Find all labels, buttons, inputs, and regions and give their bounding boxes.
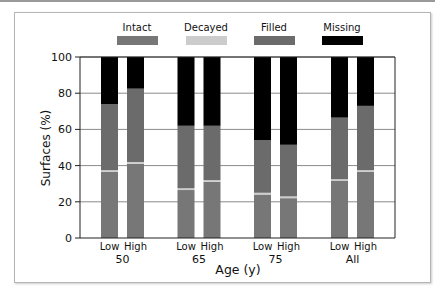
y-tick-label: 60: [58, 123, 72, 136]
bar-segment-missing: [101, 57, 118, 104]
bar-segment-missing: [280, 57, 297, 145]
legend-swatch: [254, 36, 295, 45]
x-tick-label: Low: [100, 241, 120, 252]
y-tick-label: 100: [51, 51, 72, 64]
bar-segment-intact: [101, 172, 118, 238]
bar-segment-missing: [331, 57, 348, 118]
x-axis-label: Age (y): [215, 262, 260, 277]
bar-segment-filled: [331, 118, 348, 180]
bar-segment-decayed: [331, 179, 348, 181]
bar-segment-decayed: [127, 162, 144, 164]
bar-segment-missing: [254, 57, 271, 140]
legend-swatch: [186, 36, 227, 45]
y-tick-label: 80: [58, 87, 72, 100]
y-axis-label: Surfaces (%): [39, 110, 53, 187]
x-tick-label: High: [201, 241, 224, 252]
group-label: 65: [192, 253, 206, 266]
bar-segment-decayed: [204, 180, 221, 182]
x-tick-label: Low: [176, 241, 196, 252]
legend-label: Filled: [261, 22, 287, 33]
bar-segment-missing: [204, 57, 221, 126]
legend: IntactDecayedFilledMissing: [117, 22, 363, 45]
bar-segment-intact: [204, 182, 221, 238]
x-tick-label: Low: [330, 241, 350, 252]
y-tick-label: 40: [58, 160, 72, 173]
bar-segment-filled: [357, 106, 374, 170]
x-tick-label: High: [354, 241, 377, 252]
legend-swatch: [322, 36, 363, 45]
group-label: 50: [116, 253, 130, 266]
bar-segment-filled: [254, 140, 271, 192]
bar-segment-intact: [280, 198, 297, 238]
bar-segment-filled: [127, 89, 144, 162]
bar-segment-decayed: [280, 196, 297, 198]
y-tick-label: 0: [65, 232, 72, 245]
group-label: 75: [269, 253, 283, 266]
bar-segment-intact: [254, 195, 271, 238]
x-tick-label: Low: [253, 241, 273, 252]
bar-segment-missing: [357, 57, 374, 106]
group-label: All: [346, 253, 360, 266]
bar-segment-decayed: [357, 170, 374, 172]
bar-segment-filled: [178, 126, 195, 188]
bar-segment-missing: [178, 57, 195, 126]
x-tick-label: High: [124, 241, 147, 252]
bar-segment-intact: [178, 190, 195, 238]
legend-swatch: [117, 36, 158, 45]
bar-segment-intact: [331, 181, 348, 238]
bar-segment-decayed: [254, 193, 271, 195]
y-tick-label: 20: [58, 196, 72, 209]
bars: [101, 57, 374, 238]
legend-label: Missing: [323, 22, 360, 33]
bar-segment-decayed: [101, 170, 118, 172]
bar-segment-decayed: [178, 188, 195, 190]
stacked-bar-chart: 020406080100LowHighLowHighLowHighLowHigh…: [0, 0, 435, 297]
x-tick-label: High: [277, 241, 300, 252]
bar-segment-intact: [127, 164, 144, 238]
bar-segment-filled: [204, 126, 221, 180]
legend-label: Decayed: [184, 22, 228, 33]
bar-segment-filled: [280, 145, 297, 197]
bar-segment-filled: [101, 104, 118, 170]
bar-segment-missing: [127, 57, 144, 89]
bar-segment-intact: [357, 172, 374, 238]
legend-label: Intact: [123, 22, 152, 33]
